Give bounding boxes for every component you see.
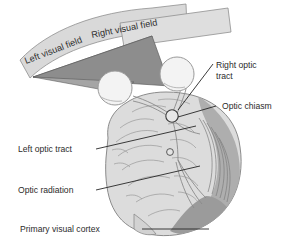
left-eyeball [98, 71, 132, 105]
left-optic-tract-label: Left optic tract [18, 144, 73, 154]
primary-visual-cortex-label: Primary visual cortex [20, 224, 100, 234]
optic-chiasm-label: Optic chiasm [222, 101, 272, 111]
visual-pathway-diagram: Left visual field Right visual field [0, 0, 296, 250]
figure-container: Left visual field Right visual field [0, 0, 296, 250]
right-eyeball [160, 57, 194, 91]
optic-radiation-marker [167, 149, 174, 156]
right-optic-tract-label-line1: Right optic [216, 60, 257, 70]
right-optic-tract-label-line2: tract [216, 71, 233, 81]
optic-radiation-label: Optic radiation [18, 185, 74, 195]
optic-chiasm-marker [166, 110, 178, 122]
